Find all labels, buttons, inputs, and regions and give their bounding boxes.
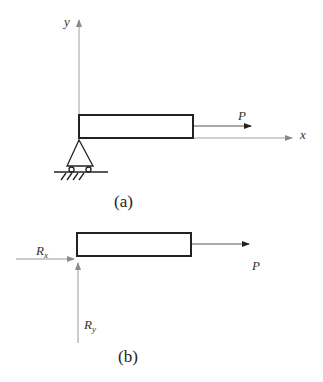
free-body-diagram: y x P (a) P Rx: [0, 0, 323, 382]
reaction-ry-label: Ry: [83, 317, 96, 334]
force-p-label-a: P: [237, 108, 246, 123]
beam-b: [77, 233, 191, 256]
caption-b: (b): [118, 347, 138, 366]
figure-b: P Rx Ry (b): [16, 233, 260, 366]
y-axis-label: y: [62, 14, 70, 29]
x-axis-label: x: [299, 127, 306, 142]
caption-a: (a): [114, 192, 133, 211]
figure-a: y x P (a): [54, 14, 306, 211]
force-p-label-b: P: [251, 258, 260, 273]
beam-a: [79, 115, 193, 138]
reaction-rx-label: Rx: [35, 243, 48, 260]
pin-roller-support-icon: [54, 140, 108, 180]
